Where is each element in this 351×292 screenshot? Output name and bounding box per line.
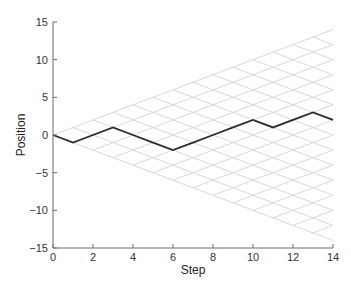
lattice-edge <box>273 112 293 120</box>
lattice-edge <box>313 195 333 203</box>
lattice-edge <box>273 75 293 83</box>
lattice-edge <box>273 60 293 68</box>
lattice-edge <box>153 127 173 135</box>
lattice-edge <box>253 75 273 83</box>
lattice-edge <box>153 135 173 143</box>
lattice-edge <box>173 127 193 135</box>
y-tick-label: 10 <box>36 54 48 66</box>
lattice-edge <box>113 112 133 120</box>
lattice-edge <box>313 143 333 151</box>
lattice-edge <box>233 180 253 188</box>
lattice-edge <box>233 82 253 90</box>
lattice-edge <box>253 143 273 151</box>
y-tick-label: 15 <box>36 16 48 28</box>
lattice-edge <box>313 233 333 241</box>
lattice-edge <box>153 165 173 173</box>
lattice-edge <box>133 112 153 120</box>
lattice-edge <box>253 127 273 135</box>
lattice-edge <box>193 120 213 128</box>
lattice-edge <box>113 143 133 151</box>
lattice-edge <box>213 143 233 151</box>
lattice-edge <box>273 165 293 173</box>
lattice-edge <box>133 165 153 173</box>
lattice-edge <box>213 150 233 158</box>
lattice-edge <box>253 97 273 105</box>
lattice-edge <box>133 120 153 128</box>
lattice-edge <box>193 150 213 158</box>
lattice-edge <box>293 97 313 105</box>
y-tick-label: −5 <box>35 167 48 179</box>
lattice-edge <box>313 188 333 196</box>
lattice-edge <box>213 97 233 105</box>
lattice-edge <box>253 188 273 196</box>
lattice-edge <box>233 60 253 68</box>
lattice-edge <box>233 158 253 166</box>
lattice-edge <box>253 203 273 211</box>
lattice-edge <box>273 90 293 98</box>
lattice-edge <box>173 180 193 188</box>
lattice-edge <box>253 195 273 203</box>
lattice-edge <box>273 218 293 226</box>
lattice-edge <box>193 158 213 166</box>
lattice-edge <box>173 173 193 181</box>
lattice-edge <box>93 112 113 120</box>
lattice-edge <box>233 188 253 196</box>
lattice-edge <box>293 82 313 90</box>
lattice-edge <box>313 225 333 233</box>
lattice-edge <box>313 37 333 45</box>
lattice-edge <box>193 127 213 135</box>
lattice-edge <box>133 150 153 158</box>
lattice-edge <box>313 67 333 75</box>
lattice-edge <box>233 173 253 181</box>
y-tick-label: 5 <box>42 91 48 103</box>
lattice-edge <box>173 90 193 98</box>
lattice-edge <box>193 90 213 98</box>
lattice-edge <box>193 97 213 105</box>
lattice-edge <box>173 120 193 128</box>
lattice-edge <box>313 90 333 98</box>
lattice-edge <box>293 143 313 151</box>
lattice-edge <box>273 135 293 143</box>
lattice-edge <box>193 105 213 113</box>
lattice-edge <box>213 173 233 181</box>
lattice-edge <box>133 143 153 151</box>
x-tick-label: 10 <box>247 251 259 263</box>
lattice-edge <box>133 127 153 135</box>
lattice-edge <box>93 150 113 158</box>
lattice-edge <box>233 75 253 83</box>
lattice-edge <box>173 135 193 143</box>
lattice-edge <box>273 143 293 151</box>
x-tick-label: 8 <box>210 251 216 263</box>
lattice-edge <box>213 82 233 90</box>
lattice-edge <box>293 150 313 158</box>
lattice-edge <box>313 218 333 226</box>
lattice-edge <box>293 173 313 181</box>
x-ticks: 02468101214 <box>50 244 339 263</box>
lattice-edge <box>313 120 333 128</box>
lattice-edge <box>253 112 273 120</box>
lattice-edge <box>233 90 253 98</box>
lattice-edge <box>273 82 293 90</box>
lattice-edge <box>133 158 153 166</box>
lattice-edge <box>313 75 333 83</box>
lattice-edge <box>313 82 333 90</box>
x-tick-label: 6 <box>170 251 176 263</box>
lattice-edge <box>213 105 233 113</box>
lattice-edge <box>273 173 293 181</box>
lattice-edge <box>293 188 313 196</box>
lattice-edge <box>213 180 233 188</box>
lattice-edge <box>313 158 333 166</box>
lattice-edge <box>233 195 253 203</box>
lattice-edge <box>313 60 333 68</box>
lattice-edge <box>173 150 193 158</box>
lattice-edge <box>153 90 173 98</box>
lattice-edge <box>273 105 293 113</box>
lattice-edge <box>253 173 273 181</box>
lattice-edge <box>293 210 313 218</box>
lattice-edge <box>273 52 293 60</box>
lattice-edge <box>73 127 93 135</box>
y-tick-label: 0 <box>42 129 48 141</box>
lattice-edge <box>273 180 293 188</box>
lattice-edge <box>253 82 273 90</box>
lattice-edge <box>153 158 173 166</box>
